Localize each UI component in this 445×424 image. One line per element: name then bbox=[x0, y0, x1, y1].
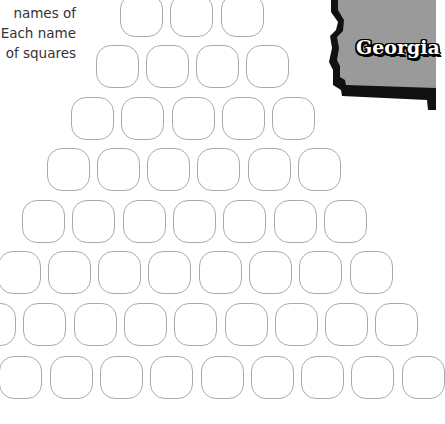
letter-square[interactable] bbox=[100, 356, 143, 399]
letter-square[interactable] bbox=[22, 200, 65, 243]
letter-square[interactable] bbox=[173, 200, 216, 243]
letter-square[interactable] bbox=[98, 251, 141, 294]
letter-square[interactable] bbox=[221, 0, 264, 37]
letter-square[interactable] bbox=[50, 356, 93, 399]
letter-square[interactable] bbox=[96, 45, 139, 88]
letter-square[interactable] bbox=[249, 251, 292, 294]
letter-square[interactable] bbox=[248, 148, 291, 191]
letter-square[interactable] bbox=[351, 356, 394, 399]
letter-square[interactable] bbox=[74, 303, 117, 346]
letter-square[interactable] bbox=[47, 148, 90, 191]
letter-square[interactable] bbox=[274, 200, 317, 243]
letter-square[interactable] bbox=[375, 303, 418, 346]
letter-square[interactable] bbox=[124, 303, 167, 346]
letter-square[interactable] bbox=[199, 251, 242, 294]
letter-square[interactable] bbox=[402, 356, 445, 399]
state-name-label: Georgia bbox=[356, 36, 440, 58]
letter-square[interactable] bbox=[222, 97, 265, 140]
letter-square[interactable] bbox=[120, 0, 163, 37]
letter-square[interactable] bbox=[48, 251, 91, 294]
letter-square[interactable] bbox=[197, 148, 240, 191]
letter-square[interactable] bbox=[223, 200, 266, 243]
letter-square[interactable] bbox=[150, 356, 193, 399]
letter-square[interactable] bbox=[121, 97, 164, 140]
letter-square[interactable] bbox=[299, 251, 342, 294]
letter-square[interactable] bbox=[0, 356, 42, 399]
letter-square[interactable] bbox=[251, 356, 294, 399]
letter-square[interactable] bbox=[201, 356, 244, 399]
letter-square[interactable] bbox=[0, 251, 41, 294]
letter-square[interactable] bbox=[350, 251, 393, 294]
letter-square[interactable] bbox=[72, 200, 115, 243]
letter-square[interactable] bbox=[325, 303, 368, 346]
letter-square[interactable] bbox=[170, 0, 213, 37]
letter-square[interactable] bbox=[196, 45, 239, 88]
letter-square[interactable] bbox=[301, 356, 344, 399]
letter-square[interactable] bbox=[298, 148, 341, 191]
letter-square[interactable] bbox=[123, 200, 166, 243]
letter-square[interactable] bbox=[148, 251, 191, 294]
letter-square[interactable] bbox=[275, 303, 318, 346]
letter-square[interactable] bbox=[147, 148, 190, 191]
letter-square[interactable] bbox=[97, 148, 140, 191]
letter-square[interactable] bbox=[225, 303, 268, 346]
letter-square[interactable] bbox=[0, 303, 16, 346]
letter-square[interactable] bbox=[272, 97, 315, 140]
letter-square[interactable] bbox=[174, 303, 217, 346]
letter-square[interactable] bbox=[71, 97, 114, 140]
letter-square[interactable] bbox=[246, 45, 289, 88]
letter-square[interactable] bbox=[23, 303, 66, 346]
letter-square[interactable] bbox=[324, 200, 367, 243]
letter-square[interactable] bbox=[172, 97, 215, 140]
letter-square[interactable] bbox=[146, 45, 189, 88]
